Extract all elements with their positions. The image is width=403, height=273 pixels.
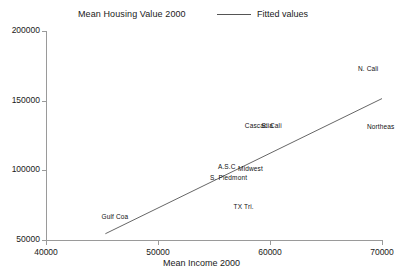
scatter-point-label: S. Piedmont <box>210 174 247 181</box>
y-axis-tick <box>42 31 46 32</box>
x-axis-tick <box>270 241 271 245</box>
fitted-values-line <box>0 0 403 273</box>
chart-container: Mean Housing Value 2000 Fitted values 50… <box>0 0 403 273</box>
y-axis-tick-label: 200000 <box>0 25 40 35</box>
scatter-point-label: N. Cali <box>358 65 379 72</box>
x-axis-tick-label: 70000 <box>352 247 403 257</box>
y-axis-tick-label: 50000 <box>0 234 40 244</box>
x-axis-tick-label: 50000 <box>128 247 188 257</box>
scatter-point-label: Gulf Coa <box>101 213 128 220</box>
x-axis-tick-label: 60000 <box>240 247 300 257</box>
chart-title: Mean Housing Value 2000 <box>78 9 186 19</box>
chart-legend: Fitted values <box>217 9 308 19</box>
scatter-point-label: TX Tri. <box>234 203 254 210</box>
scatter-point-label: Northeas <box>367 123 395 130</box>
y-axis-tick-label: 150000 <box>0 95 40 105</box>
scatter-point-label: A.S.C <box>218 163 236 170</box>
y-axis-tick <box>42 101 46 102</box>
legend-entry-label: Fitted values <box>257 9 308 19</box>
x-axis-tick-label: 40000 <box>16 247 76 257</box>
x-axis-tick <box>158 241 159 245</box>
y-axis-tick <box>42 170 46 171</box>
scatter-point-label: Midwest <box>238 165 263 172</box>
x-axis-tick <box>382 241 383 245</box>
y-axis-tick-label: 100000 <box>0 164 40 174</box>
x-axis-title: Mean Income 2000 <box>0 258 403 268</box>
legend-line-swatch-icon <box>217 14 251 15</box>
scatter-point-label: S. Cali <box>262 122 282 129</box>
x-axis-line <box>46 240 383 241</box>
y-axis-line <box>46 31 47 240</box>
x-axis-tick <box>46 241 47 245</box>
